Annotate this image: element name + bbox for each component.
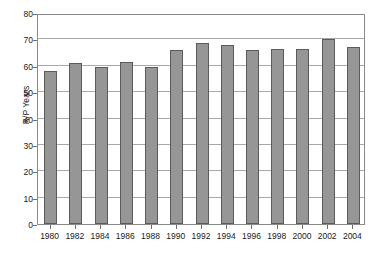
x-tick-mark — [277, 225, 278, 229]
y-tick-label: 30 — [3, 141, 33, 151]
bar — [246, 50, 259, 224]
x-tick-mark — [151, 225, 152, 229]
plot-inner — [38, 15, 364, 224]
x-tick-mark — [201, 225, 202, 229]
x-tick-mark — [125, 225, 126, 229]
x-tick-mark — [226, 225, 227, 229]
y-tick-label: 70 — [3, 35, 33, 45]
x-tick-mark — [352, 225, 353, 229]
x-axis-labels: 1980198219841986198819901992199419961998… — [37, 231, 365, 245]
bar — [196, 43, 209, 224]
y-tick-label: 40 — [3, 115, 33, 125]
bar — [69, 63, 82, 224]
bar-chart: R/P Years 01020304050607080 198019821984… — [0, 0, 379, 253]
bar — [271, 49, 284, 224]
bar — [95, 67, 108, 224]
bar — [322, 39, 335, 224]
y-tick-label: 50 — [3, 88, 33, 98]
bar — [120, 62, 133, 224]
bar — [296, 49, 309, 224]
y-tick-label: 80 — [3, 9, 33, 19]
y-axis: 01020304050607080 — [0, 14, 33, 225]
x-tick-mark — [100, 225, 101, 229]
bar — [44, 71, 57, 224]
bar — [221, 45, 234, 224]
y-tick-label: 60 — [3, 62, 33, 72]
bar — [145, 67, 158, 224]
x-tick-mark — [50, 225, 51, 229]
y-tick-label: 10 — [3, 194, 33, 204]
y-tick-label: 20 — [3, 167, 33, 177]
gridline — [38, 38, 364, 39]
x-tick-mark — [176, 225, 177, 229]
bar — [347, 47, 360, 224]
x-tick-mark — [327, 225, 328, 229]
x-tick-mark — [302, 225, 303, 229]
bar — [170, 50, 183, 224]
x-tick-mark — [75, 225, 76, 229]
plot-area — [37, 14, 365, 225]
y-tick-label: 0 — [3, 220, 33, 230]
x-axis-ticks — [37, 225, 365, 230]
x-tick-mark — [251, 225, 252, 229]
x-tick-label: 2004 — [332, 231, 372, 241]
